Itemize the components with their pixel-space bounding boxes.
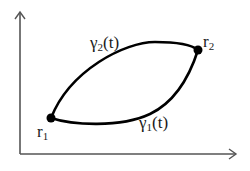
curve-gamma1 <box>51 50 198 124</box>
point-r1 <box>47 114 56 123</box>
curve-gamma2 <box>51 42 198 118</box>
label-gamma1: γ1(t) <box>139 114 168 133</box>
label-gamma2: γ2(t) <box>90 34 119 53</box>
label-r2: r2 <box>203 33 214 52</box>
label-r2-sub: 2 <box>209 40 215 52</box>
point-r2 <box>194 46 203 55</box>
label-gamma1-arg: (t) <box>152 113 168 132</box>
label-r1-sub: 1 <box>43 130 49 142</box>
path-diagram <box>0 0 250 171</box>
label-r1: r1 <box>37 123 48 142</box>
label-gamma2-base: γ <box>90 33 98 52</box>
y-axis <box>15 12 25 154</box>
x-axis <box>20 149 236 159</box>
label-gamma1-base: γ <box>139 113 147 132</box>
label-gamma2-arg: (t) <box>103 33 119 52</box>
